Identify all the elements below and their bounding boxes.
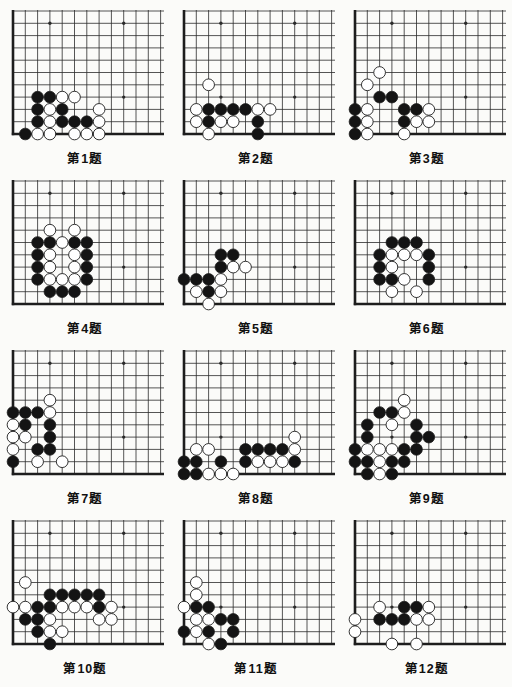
star-point <box>390 605 393 608</box>
white-stone <box>410 249 422 261</box>
white-stone <box>69 91 81 103</box>
star-point <box>464 605 467 608</box>
black-stone <box>215 249 227 261</box>
star-point <box>293 532 296 535</box>
white-stone <box>410 614 422 626</box>
black-stone <box>264 444 276 456</box>
black-stone <box>215 614 227 626</box>
black-stone <box>373 91 385 103</box>
white-stone <box>69 224 81 236</box>
black-stone <box>203 274 215 286</box>
white-stone <box>373 444 385 456</box>
black-stone <box>57 589 69 601</box>
go-board-4 <box>5 178 165 316</box>
black-stone <box>423 274 435 286</box>
white-stone <box>44 394 56 406</box>
star-point <box>122 95 125 98</box>
white-stone <box>361 128 373 140</box>
white-stone <box>190 626 202 638</box>
white-stone <box>57 237 69 249</box>
problem-cell-6: 第6题 <box>341 178 512 348</box>
black-stone <box>215 638 227 650</box>
black-stone <box>386 407 398 419</box>
star-point <box>122 532 125 535</box>
black-stone <box>410 104 422 116</box>
go-board-12 <box>347 518 507 656</box>
black-stone <box>227 249 239 261</box>
black-stone <box>7 407 19 419</box>
star-point <box>390 362 393 365</box>
star-point <box>464 265 467 268</box>
white-stone <box>94 128 106 140</box>
white-stone <box>69 274 81 286</box>
black-stone <box>69 286 81 298</box>
problem-cell-10: 第10题 <box>0 518 171 687</box>
star-point <box>293 362 296 365</box>
problem-caption-5: 第5题 <box>238 321 274 337</box>
black-stone <box>398 614 410 626</box>
white-stone <box>20 601 32 613</box>
white-stone <box>203 79 215 91</box>
black-stone <box>81 237 93 249</box>
black-stone <box>32 237 44 249</box>
black-stone <box>277 444 289 456</box>
black-stone <box>240 444 252 456</box>
black-stone <box>386 456 398 468</box>
black-stone <box>190 456 202 468</box>
white-stone <box>227 468 239 480</box>
white-stone <box>69 128 81 140</box>
white-stone <box>373 67 385 79</box>
star-point <box>49 192 52 195</box>
white-stone <box>240 261 252 273</box>
problem-cell-8: 第8题 <box>171 348 342 518</box>
black-stone <box>57 104 69 116</box>
black-stone <box>361 468 373 480</box>
white-stone <box>215 468 227 480</box>
black-stone <box>203 116 215 128</box>
white-stone <box>423 614 435 626</box>
white-stone <box>81 601 93 613</box>
black-stone <box>44 431 56 443</box>
black-stone <box>44 419 56 431</box>
star-point <box>390 435 393 438</box>
white-stone <box>190 444 202 456</box>
black-stone <box>398 104 410 116</box>
white-stone <box>94 104 106 116</box>
black-stone <box>410 431 422 443</box>
white-stone <box>264 456 276 468</box>
problem-caption-7: 第7题 <box>67 491 103 507</box>
star-point <box>390 22 393 25</box>
white-stone <box>423 104 435 116</box>
black-stone <box>190 601 202 613</box>
star-point <box>219 22 222 25</box>
white-stone <box>277 456 289 468</box>
black-stone <box>44 237 56 249</box>
white-stone <box>69 249 81 261</box>
black-stone <box>398 116 410 128</box>
star-point <box>464 362 467 365</box>
black-stone <box>57 116 69 128</box>
white-stone <box>57 626 69 638</box>
white-stone <box>190 104 202 116</box>
white-stone <box>106 601 118 613</box>
star-point <box>219 605 222 608</box>
black-stone <box>178 456 190 468</box>
black-stone <box>410 419 422 431</box>
white-stone <box>398 407 410 419</box>
black-stone <box>227 104 239 116</box>
problem-caption-4: 第4题 <box>67 321 103 337</box>
white-stone <box>7 431 19 443</box>
white-stone <box>203 444 215 456</box>
problem-cell-11: 第11题 <box>171 518 342 687</box>
go-board-7 <box>5 348 165 486</box>
white-stone <box>178 601 190 613</box>
white-stone <box>190 589 202 601</box>
go-board-9 <box>347 348 507 486</box>
black-stone <box>20 614 32 626</box>
white-stone <box>349 626 361 638</box>
white-stone <box>203 468 215 480</box>
star-point <box>122 192 125 195</box>
white-stone <box>410 638 422 650</box>
white-stone <box>398 249 410 261</box>
star-point <box>464 95 467 98</box>
